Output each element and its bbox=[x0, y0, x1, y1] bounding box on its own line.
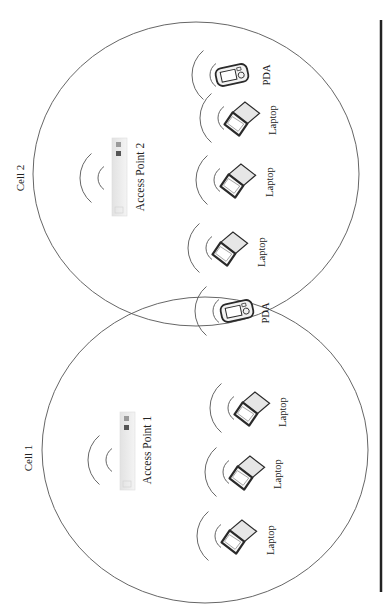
cell1-laptop-icon bbox=[219, 518, 259, 557]
roaming-pda-signal-icon bbox=[195, 286, 219, 335]
cell2-laptop-icon bbox=[222, 100, 262, 139]
status-led-icon bbox=[124, 416, 129, 421]
cell1-laptop-icon bbox=[227, 454, 267, 493]
cell1-label: Cell 1 bbox=[22, 445, 34, 472]
cell1-ap-wireless-signal-icon bbox=[88, 435, 112, 484]
cell2-device-label: PDA bbox=[261, 64, 272, 85]
cell2-laptop-icon bbox=[210, 230, 250, 269]
cell2-device-2-signal-icon bbox=[196, 155, 220, 204]
cell2-label: Cell 2 bbox=[14, 165, 26, 192]
cell1-access-point-icon bbox=[120, 412, 135, 490]
cell2-coverage-area bbox=[33, 22, 359, 326]
cell2-pda-icon bbox=[214, 63, 249, 87]
roaming-pda-icon bbox=[219, 299, 254, 323]
cell2-device-3-signal-icon bbox=[188, 223, 212, 272]
cell2-device-label: Laptop bbox=[267, 105, 278, 135]
cell1-device-0-signal-icon bbox=[210, 383, 234, 432]
status-led-icon bbox=[116, 142, 121, 147]
cell2-access-point-label: Access Point 2 bbox=[134, 143, 146, 212]
wireless-cells-diagram: Cell 2Access Point 2PDALaptopLaptopLapto… bbox=[0, 0, 390, 612]
roaming-pda-label: PDA bbox=[260, 302, 271, 323]
cell1-device-1-signal-icon bbox=[205, 447, 229, 496]
status-led-icon bbox=[124, 425, 129, 430]
cell2-laptop-icon bbox=[218, 162, 258, 201]
cell2-device-1-signal-icon bbox=[200, 93, 224, 142]
cell2-ap-wireless-signal-icon bbox=[80, 153, 104, 202]
cell1-device-label: Laptop bbox=[272, 459, 283, 489]
cell2-access-point-icon bbox=[112, 138, 127, 216]
cell2-device-0-signal-icon bbox=[192, 50, 216, 99]
cell1-laptop-icon bbox=[232, 390, 272, 429]
cell1-device-2-signal-icon bbox=[197, 511, 221, 560]
cell1-device-label: Laptop bbox=[265, 525, 276, 555]
cell1-device-label: Laptop bbox=[277, 397, 288, 427]
status-led-icon bbox=[116, 151, 121, 156]
cell2-device-label: Laptop bbox=[264, 167, 275, 197]
cell1-access-point-label: Access Point 1 bbox=[141, 416, 153, 485]
cell2-device-label: Laptop bbox=[256, 237, 267, 267]
